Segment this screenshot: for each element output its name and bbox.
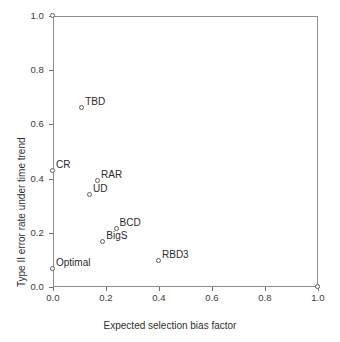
y-tick-mark — [49, 124, 53, 125]
plot-frame — [53, 16, 318, 287]
y-tick-label: 0.6 — [4, 118, 44, 129]
x-tick-label: 1.0 — [298, 292, 338, 303]
data-point-label-rbd3: RBD3 — [162, 250, 189, 260]
data-point-label-optimal: Optimal — [56, 258, 90, 268]
data-point-label-tbd: TBD — [85, 97, 105, 107]
data-point — [315, 284, 320, 289]
x-tick-mark — [106, 287, 107, 291]
x-tick-mark — [212, 287, 213, 291]
y-tick-mark — [49, 233, 53, 234]
data-point-ud — [87, 192, 92, 197]
data-point — [50, 13, 55, 18]
x-tick-label: 0.6 — [192, 292, 232, 303]
data-point-label-bcd: BCD — [120, 218, 141, 228]
y-tick-mark — [49, 179, 53, 180]
x-tick-label: 0.4 — [139, 292, 179, 303]
x-tick-label: 0.8 — [245, 292, 285, 303]
scatter-plot: 0.00.20.40.60.81.0 0.00.20.40.60.81.0 TB… — [0, 0, 340, 342]
x-axis-title: Expected selection bias factor — [0, 320, 340, 331]
y-tick-label: 0.8 — [4, 64, 44, 75]
x-tick-mark — [159, 287, 160, 291]
y-tick-label: 1.0 — [4, 10, 44, 21]
x-tick-mark — [265, 287, 266, 291]
data-point-label-cr: CR — [56, 160, 70, 170]
data-point-label-rar: RAR — [101, 170, 122, 180]
data-point-cr — [50, 168, 55, 173]
y-tick-mark — [49, 70, 53, 71]
data-point-label-bigs: BigS — [106, 231, 127, 241]
data-point-label-ud: UD — [93, 184, 107, 194]
x-tick-label: 0.2 — [86, 292, 126, 303]
x-tick-label: 0.0 — [33, 292, 73, 303]
x-tick-mark — [53, 287, 54, 291]
y-axis-title: Type II error rate under time trend — [16, 137, 27, 287]
